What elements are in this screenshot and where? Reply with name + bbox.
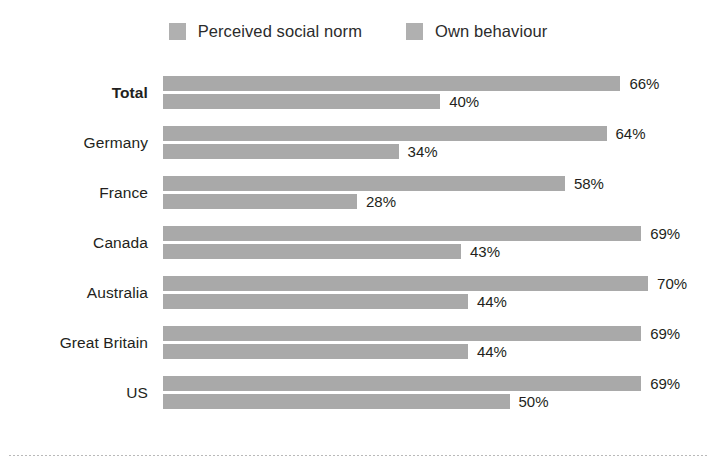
bar-pair: 69% 50% — [163, 372, 716, 409]
legend-label: Perceived social norm — [198, 22, 362, 41]
category-label: US — [0, 384, 148, 402]
bar-group: US 69% 50% — [0, 372, 716, 422]
bar-pair: 66% 40% — [163, 72, 716, 109]
legend-swatch-icon — [406, 23, 423, 40]
bar-perceived-social-norm — [163, 276, 648, 291]
table-row: 66% — [163, 76, 716, 91]
bar-own-behaviour — [163, 294, 468, 309]
legend-label: Own behaviour — [435, 22, 547, 41]
bar-group: France 58% 28% — [0, 172, 716, 222]
bar-value-label: 69% — [650, 376, 680, 391]
category-label: France — [0, 184, 148, 202]
bar-own-behaviour — [163, 94, 440, 109]
bar-own-behaviour — [163, 394, 510, 409]
table-row: 69% — [163, 326, 716, 341]
category-label: Great Britain — [0, 334, 148, 352]
chart-legend: Perceived social norm Own behaviour — [0, 22, 716, 41]
table-row: 70% — [163, 276, 716, 291]
legend-item-perceived-social-norm: Perceived social norm — [169, 22, 362, 41]
bar-value-label: 44% — [477, 294, 507, 309]
bar-perceived-social-norm — [163, 226, 641, 241]
bar-group: Germany 64% 34% — [0, 122, 716, 172]
bar-perceived-social-norm — [163, 76, 620, 91]
category-label: Germany — [0, 134, 148, 152]
table-row: 34% — [163, 144, 716, 159]
grouped-bar-chart: Perceived social norm Own behaviour Tota… — [0, 0, 716, 468]
bar-own-behaviour — [163, 194, 357, 209]
table-row: 40% — [163, 94, 716, 109]
footer-divider — [8, 455, 708, 456]
bar-pair: 70% 44% — [163, 272, 716, 309]
bar-value-label: 40% — [449, 94, 479, 109]
bar-value-label: 58% — [574, 176, 604, 191]
bar-group: Canada 69% 43% — [0, 222, 716, 272]
bar-value-label: 34% — [408, 144, 438, 159]
category-label: Total — [0, 84, 148, 102]
bar-group: Great Britain 69% 44% — [0, 322, 716, 372]
bar-own-behaviour — [163, 344, 468, 359]
plot-area: Total 66% 40% Germany 64% — [0, 72, 716, 422]
bar-value-label: 28% — [366, 194, 396, 209]
legend-item-own-behaviour: Own behaviour — [406, 22, 547, 41]
table-row: 28% — [163, 194, 716, 209]
bar-perceived-social-norm — [163, 376, 641, 391]
bar-perceived-social-norm — [163, 176, 565, 191]
bar-value-label: 70% — [657, 276, 687, 291]
bar-own-behaviour — [163, 144, 399, 159]
bar-pair: 69% 44% — [163, 322, 716, 359]
table-row: 50% — [163, 394, 716, 409]
bar-own-behaviour — [163, 244, 461, 259]
bar-pair: 58% 28% — [163, 172, 716, 209]
bar-group: Australia 70% 44% — [0, 272, 716, 322]
bar-value-label: 64% — [616, 126, 646, 141]
bar-value-label: 43% — [470, 244, 500, 259]
table-row: 69% — [163, 376, 716, 391]
table-row: 43% — [163, 244, 716, 259]
table-row: 69% — [163, 226, 716, 241]
bar-group: Total 66% 40% — [0, 72, 716, 122]
table-row: 64% — [163, 126, 716, 141]
table-row: 44% — [163, 294, 716, 309]
bar-pair: 69% 43% — [163, 222, 716, 259]
category-label: Australia — [0, 284, 148, 302]
category-label: Canada — [0, 234, 148, 252]
bar-value-label: 50% — [519, 394, 549, 409]
bar-perceived-social-norm — [163, 126, 607, 141]
bar-value-label: 66% — [629, 76, 659, 91]
bar-perceived-social-norm — [163, 326, 641, 341]
bar-value-label: 44% — [477, 344, 507, 359]
bar-value-label: 69% — [650, 226, 680, 241]
table-row: 44% — [163, 344, 716, 359]
legend-swatch-icon — [169, 23, 186, 40]
bar-value-label: 69% — [650, 326, 680, 341]
bar-pair: 64% 34% — [163, 122, 716, 159]
table-row: 58% — [163, 176, 716, 191]
